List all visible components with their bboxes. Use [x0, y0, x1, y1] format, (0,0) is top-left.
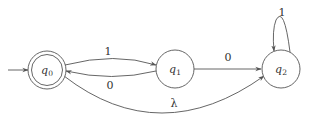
transition-label-q1-q2: 0 — [225, 51, 232, 64]
state-q1-name: q — [169, 63, 176, 76]
transition-q0-q1 — [65, 59, 156, 66]
state-q1: q1 — [156, 50, 194, 88]
transition-label-q0-q1: 1 — [105, 45, 112, 58]
state-q2-name: q — [275, 63, 282, 76]
state-q2-sub: 2 — [282, 68, 287, 77]
transition-q1-q0 — [66, 71, 156, 77]
state-q0-name: q — [41, 64, 48, 77]
state-q1-sub: 1 — [176, 68, 181, 77]
transition-label-q1-q0: 0 — [107, 79, 114, 92]
state-diagram: 1 0 0 λ 1 q0 q1 q2 — [0, 0, 310, 116]
state-q0-sub: 0 — [48, 69, 53, 78]
state-q2: q2 — [262, 50, 300, 88]
state-q0: q0 — [28, 51, 66, 89]
transition-label-q2-q2: 1 — [279, 6, 286, 19]
transition-label-q0-q2: λ — [171, 97, 178, 110]
transition-q2-q2 — [273, 16, 290, 52]
